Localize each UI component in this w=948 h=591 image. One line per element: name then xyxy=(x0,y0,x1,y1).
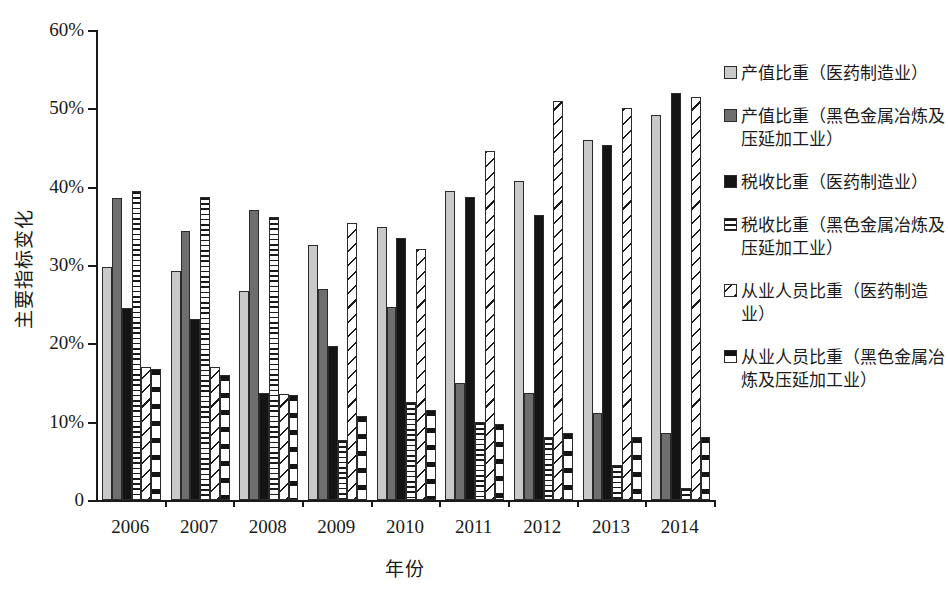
diagonal-lines-swatch-icon xyxy=(724,284,737,297)
x-tick-mark xyxy=(233,500,235,507)
bar xyxy=(318,289,328,501)
legend-item[interactable]: 税收比重（医药制造业） xyxy=(724,171,948,194)
bar xyxy=(612,465,622,500)
bar xyxy=(455,383,465,500)
bar xyxy=(524,393,534,500)
x-tick-label: 2011 xyxy=(455,516,492,538)
bar xyxy=(622,108,632,500)
bar xyxy=(651,115,661,500)
bar xyxy=(701,437,711,500)
bar xyxy=(239,291,249,500)
bar xyxy=(338,440,348,500)
x-tick-label: 2014 xyxy=(661,516,699,538)
bar xyxy=(259,393,269,500)
bar xyxy=(583,140,593,500)
bar xyxy=(141,367,151,500)
bar xyxy=(671,93,681,500)
y-tick-label: 10% xyxy=(49,411,84,433)
y-tick-mark xyxy=(88,500,96,502)
y-tick-label: 60% xyxy=(49,19,84,41)
x-tick-mark xyxy=(302,500,304,507)
x-tick-mark xyxy=(371,500,373,507)
light-gray-swatch-icon xyxy=(724,66,737,79)
bar xyxy=(122,308,132,500)
y-tick-mark xyxy=(88,265,96,267)
bar xyxy=(102,267,112,500)
x-tick-mark xyxy=(714,500,716,507)
bar xyxy=(406,402,416,500)
legend-item[interactable]: 产值比重（医药制造业） xyxy=(724,62,948,85)
bar xyxy=(357,416,367,500)
bar xyxy=(544,437,554,500)
y-tick-mark xyxy=(88,343,96,345)
bar xyxy=(279,394,289,500)
legend-item-label: 产值比重（黑色金属冶炼及压延加工业） xyxy=(741,105,948,151)
bar xyxy=(632,437,642,500)
bar xyxy=(445,191,455,500)
bar-chart: 主要指标变化 010%20%30%40%50%60% 2006200720082… xyxy=(0,0,948,591)
bar xyxy=(426,410,436,500)
bar xyxy=(485,151,495,500)
bar xyxy=(289,395,299,500)
x-tick-mark xyxy=(165,500,167,507)
bar xyxy=(249,210,259,500)
bar xyxy=(475,422,485,500)
legend-item-label: 税收比重（黑色金属冶炼及压延加工业） xyxy=(741,214,948,260)
bar xyxy=(210,367,220,500)
bar xyxy=(308,245,318,500)
bar xyxy=(377,227,387,500)
x-axis-title: 年份 xyxy=(96,554,714,581)
bar xyxy=(593,413,603,500)
bar xyxy=(534,215,544,500)
bar xyxy=(112,198,122,500)
legend-item[interactable]: 从业人员比重（医药制造业） xyxy=(724,280,948,326)
bar xyxy=(563,433,573,500)
bar xyxy=(465,197,475,500)
y-tick-label: 20% xyxy=(49,332,84,354)
bar xyxy=(514,181,524,500)
x-tick-mark xyxy=(508,500,510,507)
bar xyxy=(171,271,181,500)
bar xyxy=(220,375,230,500)
bar xyxy=(328,346,338,500)
x-tick-mark xyxy=(439,500,441,507)
bar xyxy=(151,369,161,500)
x-tick-label: 2007 xyxy=(180,516,218,538)
y-tick-label: 50% xyxy=(49,97,84,119)
x-tick-label: 2006 xyxy=(111,516,149,538)
x-tick-label: 2013 xyxy=(592,516,630,538)
bar xyxy=(416,249,426,500)
x-tick-label: 2012 xyxy=(523,516,561,538)
bar xyxy=(396,238,406,500)
x-axis-line xyxy=(96,500,716,502)
x-tick-mark xyxy=(577,500,579,507)
bar xyxy=(681,488,691,500)
y-tick-label: 30% xyxy=(49,254,84,276)
bar xyxy=(553,101,563,501)
y-tick-mark xyxy=(88,422,96,424)
bar xyxy=(347,223,357,500)
legend-item-label: 从业人员比重（黑色金属冶炼及压延加工业） xyxy=(741,346,948,392)
y-axis-title: 主要指标变化 xyxy=(9,169,36,369)
chart-legend: 产值比重（医药制造业）产值比重（黑色金属冶炼及压延加工业）税收比重（医药制造业）… xyxy=(724,62,948,412)
y-tick-mark xyxy=(88,30,96,32)
x-tick-label: 2010 xyxy=(386,516,424,538)
y-axis-line xyxy=(96,30,98,502)
y-tick-mark xyxy=(88,108,96,110)
bar xyxy=(691,97,701,500)
bar xyxy=(181,231,191,500)
legend-item[interactable]: 从业人员比重（黑色金属冶炼及压延加工业） xyxy=(724,346,948,392)
x-tick-mark xyxy=(645,500,647,507)
bar xyxy=(495,424,505,500)
legend-item[interactable]: 产值比重（黑色金属冶炼及压延加工业） xyxy=(724,105,948,151)
bar xyxy=(200,197,210,500)
horizontal-lines-swatch-icon xyxy=(724,218,737,231)
legend-item-label: 产值比重（医药制造业） xyxy=(741,62,928,85)
legend-item[interactable]: 税收比重（黑色金属冶炼及压延加工业） xyxy=(724,214,948,260)
dark-gray-swatch-icon xyxy=(724,109,737,122)
legend-item-label: 从业人员比重（医药制造业） xyxy=(741,280,948,326)
y-tick-label: 40% xyxy=(49,176,84,198)
legend-item-label: 税收比重（医药制造业） xyxy=(741,171,928,194)
plot-area: 010%20%30%40%50%60% 20062007200820092010… xyxy=(96,30,714,502)
bar xyxy=(190,319,200,500)
